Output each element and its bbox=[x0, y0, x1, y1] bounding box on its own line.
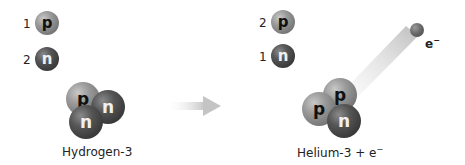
proton-icon: p bbox=[271, 10, 295, 34]
proton-count: 2 bbox=[259, 17, 267, 29]
proton-icon: p bbox=[35, 11, 59, 35]
neutron-count: 1 bbox=[259, 51, 267, 63]
proton-count: 1 bbox=[23, 18, 31, 30]
neutron-icon: n bbox=[271, 44, 295, 68]
neutron-count: 2 bbox=[23, 54, 31, 66]
electron-icon bbox=[410, 23, 424, 37]
neutron-ball: n bbox=[327, 104, 361, 138]
reactant-label: Hydrogen-3 bbox=[62, 145, 132, 159]
reaction-arrow-icon bbox=[165, 96, 225, 116]
neutron-icon: n bbox=[35, 47, 59, 71]
neutron-ball: n bbox=[69, 105, 103, 139]
product-label: Helium-3 + e− bbox=[297, 145, 383, 160]
electron-label: e− bbox=[425, 36, 440, 51]
